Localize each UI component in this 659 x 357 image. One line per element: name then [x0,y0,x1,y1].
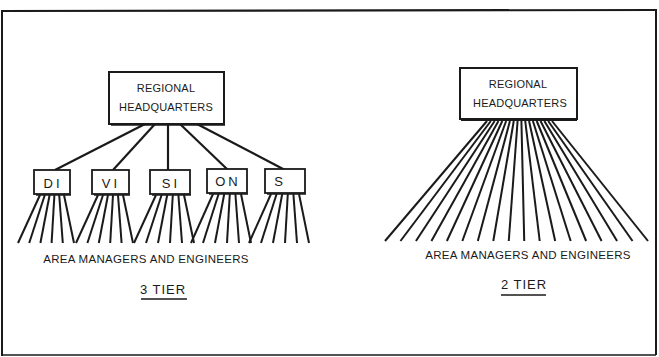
branch-line [241,194,251,243]
branch-line [552,121,648,241]
two-tier-hq-label-line1: REGIONAL [489,78,547,90]
branch-line [110,195,113,243]
branch-line [118,195,122,243]
branch-line [431,121,498,241]
branch-line [521,121,524,241]
division-box-3: ON [207,169,248,194]
branch-line [170,195,173,243]
three-tier-hq-box: REGIONAL HEADQUARTERS [109,72,225,125]
two-tier-caption: 2 TIER [501,277,547,292]
branch-line [123,195,133,243]
division-label-0: DI [44,176,63,191]
two-tier-chart: REGIONAL HEADQUARTERS AREA MANAGERS AND … [385,68,648,295]
hq-to-division-connectors [55,124,285,170]
three-tier-leaf-label: AREA MANAGERS AND ENGINEERS [43,253,249,265]
division-box-1: VI [92,170,130,195]
division-label-2: SI [162,176,180,191]
branch-line [52,195,55,243]
branch-line [249,194,271,243]
three-tier-caption: 3 TIER [140,282,186,297]
three-tier-hq-label-line2: HEADQUARTERS [119,101,213,113]
branch-line [227,194,230,243]
branch-line [544,121,617,241]
three-tier-hq-label-line1: REGIONAL [137,82,195,94]
division-label-1: VI [102,176,120,191]
division-label-4: S [274,174,286,189]
branch-line [541,121,602,241]
two-tier-leaf-label: AREA MANAGERS AND ENGINEERS [425,249,631,261]
branch-line [59,195,63,243]
branch-line [64,195,74,243]
division-box-2: SI [150,170,191,195]
branch-line [235,194,239,243]
org-structure-diagram: REGIONAL HEADQUARTERS DI VI SI ON [0,0,659,357]
branch-line [134,195,156,243]
branch-line [184,195,194,243]
three-tier-chart: REGIONAL HEADQUARTERS DI VI SI ON [18,72,309,299]
branch-line [299,194,309,243]
division-label-3: ON [215,174,241,189]
branch-line [293,194,297,243]
two-tier-hq-label-line2: HEADQUARTERS [473,97,567,109]
branch-line [191,194,213,243]
two-tier-fan [385,121,648,241]
division-fans [18,194,309,243]
branch-line [178,195,182,243]
branch-line [285,194,288,243]
branch-line [400,121,490,241]
branch-line [462,121,506,241]
two-tier-hq-box: REGIONAL HEADQUARTERS [460,68,577,120]
division-box-0: DI [34,170,71,195]
division-box-4: S [265,169,306,194]
branch-line [385,121,487,241]
